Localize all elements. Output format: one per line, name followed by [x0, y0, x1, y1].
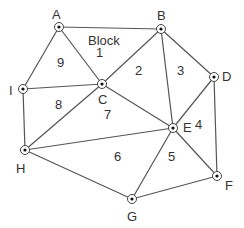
region-label-7: 7	[104, 108, 111, 121]
edge-i-h	[23, 89, 25, 150]
node-label-e: E	[183, 121, 192, 134]
node-g-icon	[128, 195, 137, 204]
region-label-1: 1	[96, 46, 103, 59]
region-label-2: 2	[135, 64, 142, 77]
edge-a-i	[23, 27, 59, 89]
edge-b-d	[161, 29, 214, 77]
node-e-icon	[169, 124, 178, 133]
edge-a-b	[59, 27, 161, 29]
edge-e-g	[132, 128, 173, 199]
edge-c-e	[102, 84, 173, 128]
node-c-icon	[98, 80, 107, 89]
edge-d-f	[214, 77, 217, 176]
edge-d-e	[173, 77, 214, 128]
node-h-icon	[21, 146, 30, 155]
region-label-6: 6	[114, 150, 121, 163]
node-label-d: D	[222, 70, 231, 83]
edge-f-g	[132, 176, 217, 199]
region-label-4: 4	[195, 118, 202, 131]
region-label-5: 5	[168, 150, 175, 163]
node-label-b: B	[157, 9, 166, 22]
edge-c-i	[23, 84, 102, 89]
region-label-8: 8	[55, 98, 62, 111]
edge-e-f	[173, 128, 217, 176]
node-label-h: H	[16, 162, 25, 175]
region-label-9: 9	[57, 56, 64, 69]
block-label: Block	[88, 34, 120, 47]
node-label-i: I	[9, 84, 13, 97]
node-i-icon	[19, 85, 28, 94]
node-b-icon	[157, 25, 166, 34]
region-label-3: 3	[177, 64, 184, 77]
edge-b-e	[161, 29, 173, 128]
node-label-g: G	[127, 210, 137, 223]
node-label-a: A	[52, 8, 61, 21]
node-f-icon	[213, 172, 222, 181]
node-a-icon	[55, 23, 64, 32]
graph-canvas	[0, 0, 244, 228]
block-diagram: Block ABCDEFGHI123456789	[0, 0, 244, 228]
node-d-icon	[210, 73, 219, 82]
node-label-c: C	[98, 93, 107, 106]
node-label-f: F	[225, 179, 233, 192]
